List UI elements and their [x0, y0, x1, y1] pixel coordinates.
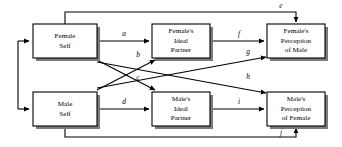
edge-f: f [210, 29, 264, 41]
node-female-self[interactable]: Female Self [33, 24, 100, 61]
edge-label-d: d [122, 97, 126, 106]
node-female-self-line2: Self [59, 42, 71, 50]
node-female-ideal-partner-line2: Ideal [174, 37, 188, 45]
node-female-ideal-partner[interactable]: Female's Ideal Partner [152, 24, 213, 61]
node-male-self-line1: Male [58, 100, 73, 108]
edge-label-i: i [238, 97, 240, 106]
diagram-root: e j b c g h [0, 0, 342, 147]
node-male-self-line2: Self [59, 110, 71, 118]
diagram-canvas: e j b c g h [0, 0, 342, 147]
edge-label-h: h [246, 72, 250, 81]
node-female-perception-of-male-line3: of Male [285, 46, 307, 54]
node-male-perception-of-female-line3: of Female [282, 114, 311, 122]
node-male-ideal-partner-line1: Male's [172, 95, 191, 103]
edge-b: b [97, 50, 155, 90]
node-male-ideal-partner-line2: Ideal [174, 105, 188, 113]
edge-label-e: e [279, 1, 283, 10]
node-male-perception-of-female-line2: Perception [281, 105, 312, 113]
node-male-ideal-partner[interactable]: Male's Ideal Partner [152, 92, 213, 129]
edge-label-f: f [238, 29, 241, 38]
edge-label-b: b [136, 50, 140, 59]
edge-label-a: a [122, 29, 126, 38]
node-male-self[interactable]: Male Self [33, 92, 100, 129]
node-female-perception-of-male-line2: Perception [281, 37, 312, 45]
edge-label-g: g [246, 47, 250, 56]
edge-e: e [65, 1, 296, 24]
node-male-perception-of-female-line1: Male's [287, 95, 306, 103]
feedback-left-loop [18, 41, 29, 109]
node-female-ideal-partner-line1: Female's [169, 27, 194, 35]
node-female-self-line1: Female [55, 32, 76, 40]
node-female-perception-of-male-line1: Female's [284, 27, 309, 35]
node-male-ideal-partner-line3: Partner [171, 114, 192, 122]
edge-d: d [97, 97, 149, 109]
node-female-perception-of-male[interactable]: Female's Perception of Male [267, 24, 328, 61]
node-female-ideal-partner-line3: Partner [171, 46, 192, 54]
edge-label-j: j [279, 128, 282, 137]
edge-i: i [210, 97, 264, 109]
node-male-perception-of-female[interactable]: Male's Perception of Female [267, 92, 328, 129]
edge-a: a [97, 29, 149, 41]
